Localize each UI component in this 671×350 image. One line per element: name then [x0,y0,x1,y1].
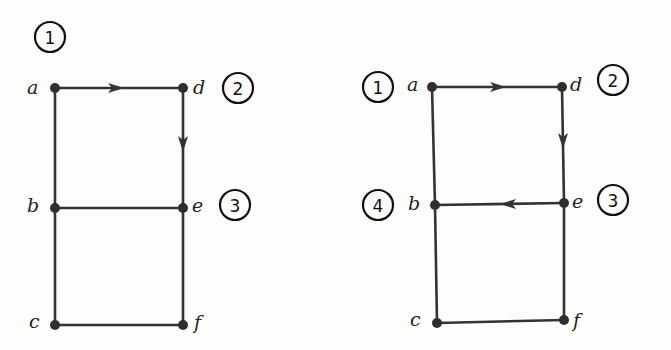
order-marker-3: 3 [598,185,628,215]
order-marker-1: 1 [363,72,393,102]
svg-text:3: 3 [608,191,619,211]
vertex-label-c: c [410,308,421,330]
vertex-f [178,320,188,330]
svg-text:3: 3 [230,196,241,216]
vertex-d [178,83,188,93]
order-marker-3: 3 [220,190,250,220]
vertex-label-a: a [407,73,418,95]
right-graph: a d b e c f 1 2 3 4 [363,65,628,331]
vertex-c [432,318,442,328]
vertex-label-b: b [27,194,39,216]
svg-text:2: 2 [233,79,244,99]
vertex-e [559,198,569,208]
diagram-canvas: a d b e c f 1 2 3 [0,0,671,350]
edge-a-b [432,87,435,205]
vertex-d [557,82,567,92]
order-marker-4: 4 [363,190,393,220]
vertex-label-e: e [572,190,583,212]
vertex-f [559,315,569,325]
vertex-label-c: c [29,310,40,332]
edge-e-b [435,203,564,205]
vertex-b [430,200,440,210]
vertex-label-f: f [571,309,583,331]
svg-text:4: 4 [373,196,384,216]
vertex-a [50,83,60,93]
vertex-label-b: b [408,192,420,214]
svg-text:2: 2 [608,71,619,91]
edge-c-f [437,320,564,323]
vertex-label-d: d [570,73,582,95]
svg-text:1: 1 [45,28,56,48]
svg-text:1: 1 [373,78,384,98]
vertex-label-d: d [193,76,205,98]
vertex-c [50,320,60,330]
vertex-label-e: e [192,194,203,216]
left-graph: a d b e c f 1 2 3 [27,22,253,333]
vertex-label-a: a [27,76,38,98]
vertex-a [427,82,437,92]
order-marker-2: 2 [223,73,253,103]
vertex-label-f: f [192,311,204,333]
vertex-e [178,203,188,213]
vertex-b [50,203,60,213]
order-marker-2: 2 [598,65,628,95]
edge-b-c [435,205,437,323]
order-marker-1: 1 [35,22,65,52]
